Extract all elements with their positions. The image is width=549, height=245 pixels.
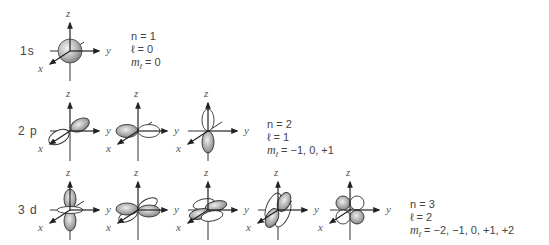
orbital-3d-fourth bbox=[245, 166, 319, 240]
angular-quantum-number: ℓ = 2 bbox=[410, 211, 514, 224]
ml-symbol: m bbox=[410, 223, 419, 237]
ml-values: = 0 bbox=[142, 56, 161, 68]
principal-quantum-number: n = 3 bbox=[410, 198, 514, 211]
principal-quantum-number: n = 1 bbox=[131, 30, 161, 43]
orbital-3d-second bbox=[105, 166, 179, 240]
quantum-numbers-1s: n = 1 ℓ = 0 mℓ = 0 bbox=[131, 30, 161, 73]
orbital-2px bbox=[37, 87, 111, 161]
orbital-2pz bbox=[175, 87, 249, 161]
quantum-numbers-2p: n = 2 ℓ = 1 mℓ = −1, 0, +1 bbox=[267, 118, 334, 161]
ml-symbol: m bbox=[267, 143, 276, 157]
orbital-3d-third bbox=[175, 166, 249, 240]
row-label-1s: 1s bbox=[20, 44, 35, 58]
magnetic-quantum-number: mℓ = 0 bbox=[131, 56, 161, 73]
magnetic-quantum-number: mℓ = −1, 0, +1 bbox=[267, 144, 334, 161]
row-label-3d: 3 d bbox=[18, 203, 38, 217]
principal-quantum-number: n = 2 bbox=[267, 118, 334, 131]
row-label-2p: 2 p bbox=[18, 124, 38, 138]
orbital-2py bbox=[105, 87, 179, 161]
angular-quantum-number: ℓ = 1 bbox=[267, 131, 334, 144]
quantum-numbers-3d: n = 3 ℓ = 2 mℓ = −2, −1, 0, +1, +2 bbox=[410, 198, 514, 241]
ml-values: = −1, 0, +1 bbox=[278, 144, 334, 156]
ml-values: = −2, −1, 0, +1, +2 bbox=[421, 224, 514, 236]
orbital-3dz2 bbox=[37, 166, 111, 240]
orbital-3d-fifth bbox=[317, 166, 391, 240]
ml-symbol: m bbox=[131, 55, 140, 69]
orbital-1s bbox=[37, 7, 111, 81]
magnetic-quantum-number: mℓ = −2, −1, 0, +1, +2 bbox=[410, 224, 514, 241]
